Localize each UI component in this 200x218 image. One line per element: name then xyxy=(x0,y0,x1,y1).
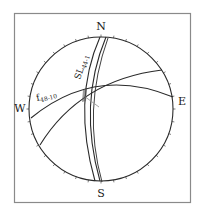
tick-marks xyxy=(27,35,176,184)
stereonet-figure: N S E W SL44-1 f48-10 xyxy=(0,0,200,218)
sl-great-circle-2 xyxy=(90,37,106,181)
west-label: W xyxy=(14,102,26,115)
f-great-circle-upper xyxy=(31,85,173,118)
east-label: E xyxy=(178,95,186,108)
north-label: N xyxy=(96,20,106,33)
south-label: S xyxy=(97,187,105,200)
primitive-circle xyxy=(29,37,173,181)
figure-frame xyxy=(15,14,191,203)
intersection-zone xyxy=(82,89,87,102)
f-great-circle-lower xyxy=(40,70,162,145)
sl-label-sub: 44-1 xyxy=(80,54,91,69)
